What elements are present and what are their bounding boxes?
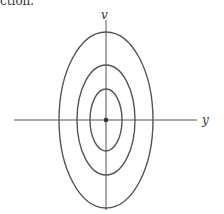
horizontal-axis-label: y	[201, 113, 209, 127]
center-dot	[104, 118, 109, 123]
contour-diagram: v y	[0, 0, 224, 214]
vertical-axis-label: v	[101, 8, 108, 22]
